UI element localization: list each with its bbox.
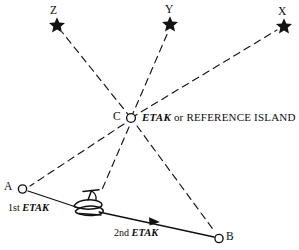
sightline-c-to-canoe [101, 127, 129, 192]
caption-reference-island: REFERENCE ISLAND [186, 111, 295, 123]
etak-navigation-figure: Z Y X C A B ETAK or REFERENCE ISLAND 1st… [0, 0, 299, 250]
canoe-hull-upper [74, 200, 102, 209]
marker-node-a [18, 185, 26, 193]
caption-etak-term: ETAK [142, 111, 171, 123]
leg-1-label: 1st ETAK [8, 203, 49, 214]
sightline-c-to-star-x [131, 30, 277, 118]
star-z-label: Z [50, 5, 57, 17]
node-b-label: B [226, 231, 234, 243]
caption-connector: or [171, 111, 186, 123]
leg-2-ordinal: 2nd [114, 227, 132, 238]
leg-2-label: 2nd ETAK [114, 228, 158, 239]
marker-node-b [215, 234, 223, 242]
marker-node-c [127, 114, 136, 123]
dashed-sightlines-group [30, 30, 277, 232]
leg-2-etak-term: ETAK [132, 227, 159, 238]
star-y-glyph [162, 16, 178, 31]
canoe-mast [88, 191, 92, 201]
reference-island-caption: ETAK or REFERENCE ISLAND [142, 112, 296, 123]
node-a-label: A [4, 181, 12, 193]
waypoint-markers-group [18, 114, 223, 243]
node-c-label: C [113, 111, 121, 123]
sightline-c-to-node-a [30, 124, 124, 186]
sightline-c-to-node-b [137, 126, 215, 232]
star-x-glyph [276, 18, 292, 33]
star-x-label: X [278, 6, 286, 18]
sightline-c-to-star-y [131, 32, 168, 118]
guide-stars-group [49, 16, 292, 33]
leg-1-etak-term: ETAK [22, 202, 49, 213]
star-z-glyph [49, 17, 65, 32]
leg-1-ordinal: 1st [8, 202, 22, 213]
sightline-c-to-star-z [62, 32, 131, 118]
star-y-label: Y [165, 4, 173, 16]
